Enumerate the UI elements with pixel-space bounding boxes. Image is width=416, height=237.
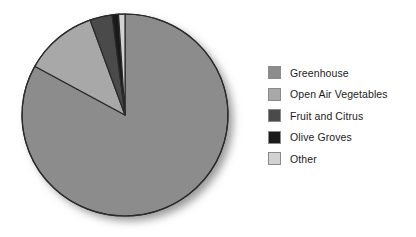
legend-label-olive-groves: Olive Groves — [290, 131, 352, 143]
legend-swatch-fruit-and-citrus — [268, 109, 281, 122]
legend-label-fruit-and-citrus: Fruit and Citrus — [290, 110, 363, 122]
legend-item-other[interactable]: Other — [268, 148, 416, 170]
legend-item-greenhouse[interactable]: Greenhouse — [268, 62, 416, 84]
legend-label-other: Other — [290, 153, 317, 165]
pie-svg — [0, 0, 250, 237]
legend: Greenhouse Open Air Vegetables Fruit and… — [268, 62, 416, 170]
legend-item-olive-groves[interactable]: Olive Groves — [268, 127, 416, 149]
legend-label-greenhouse: Greenhouse — [290, 67, 349, 79]
pie-slices — [22, 14, 228, 216]
legend-swatch-open-air-vegetables — [268, 88, 281, 101]
pie-chart-area — [0, 0, 250, 237]
legend-label-open-air-vegetables: Open Air Vegetables — [290, 88, 388, 100]
legend-item-fruit-and-citrus[interactable]: Fruit and Citrus — [268, 105, 416, 127]
pie-chart-figure: Greenhouse Open Air Vegetables Fruit and… — [0, 0, 416, 237]
legend-swatch-greenhouse — [268, 66, 281, 79]
legend-swatch-other — [268, 152, 281, 165]
legend-item-open-air-vegetables[interactable]: Open Air Vegetables — [268, 84, 416, 106]
legend-swatch-olive-groves — [268, 131, 281, 144]
